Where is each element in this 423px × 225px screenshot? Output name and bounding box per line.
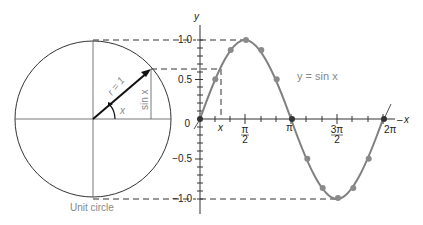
angle-label: x: [119, 105, 126, 116]
x-marker-label: x: [217, 122, 224, 133]
sine-label: sin x: [139, 89, 150, 110]
origin-label: 0: [184, 118, 190, 129]
y-tick-neg0.5: −0.5: [172, 153, 192, 164]
x-axis-label: x: [403, 114, 410, 125]
curve-label: y = sin x: [297, 70, 338, 82]
y-tick-1: 1.0: [178, 34, 192, 45]
axis-break-left: [194, 121, 199, 129]
tick-3pi-over-2-den: 2: [334, 134, 340, 145]
y-tick-0.5: 0.5: [178, 74, 192, 85]
sine-unit-circle-diagram: x r = 1 sin x Unit circle: [0, 0, 423, 225]
x-axis-dash: –: [397, 114, 403, 125]
tick-pi-over-2-den: 2: [242, 134, 248, 145]
angle-arc: [110, 105, 115, 119]
graph-axes: y – x 1.0 0.5 0 −0.5 −1.0 x π 2 π 3π 2 2…: [172, 11, 410, 214]
unit-circle-caption: Unit circle: [70, 202, 114, 213]
y-tick-neg1: −1.0: [172, 193, 192, 204]
y-axis-label: y: [193, 11, 200, 22]
tick-2pi: 2π: [384, 124, 397, 135]
unit-circle-group: x r = 1 sin x Unit circle: [15, 41, 171, 213]
